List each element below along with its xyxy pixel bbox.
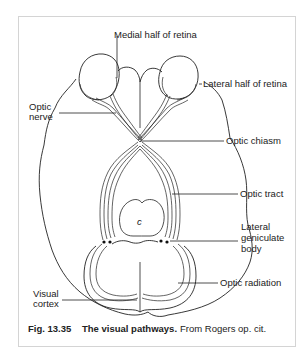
label-lgb-line2: geniculate — [241, 232, 284, 243]
label-lgb-line3: body — [241, 243, 262, 254]
left-eye — [79, 54, 119, 100]
label-medial-half-retina: Medial half of retina — [114, 29, 198, 40]
frontal-lobes — [118, 67, 162, 82]
caption-source: From Rogers op. cit. — [180, 323, 266, 334]
label-optic-nerve-line2: nerve — [29, 111, 53, 122]
label-lgb-line1: Lateral — [241, 221, 270, 232]
label-optic-chiasm: Optic chiasm — [226, 135, 281, 146]
caption-number: Fig. 13.35 — [28, 323, 72, 334]
label-optic-radiation: Optic radiation — [220, 277, 281, 288]
midbrain — [119, 200, 164, 236]
label-visual-cortex-line2: cortex — [33, 298, 59, 309]
label-lateral-half-retina: Lateral half of retina — [203, 78, 288, 89]
label-optic-tract: Optic tract — [240, 188, 284, 199]
left-retina — [80, 77, 117, 100]
visual-pathways-diagram: c Medial half of retina Lateral half of … — [0, 0, 306, 359]
caption-title: The visual pathways. — [82, 323, 177, 334]
center-mark: c — [137, 216, 142, 227]
